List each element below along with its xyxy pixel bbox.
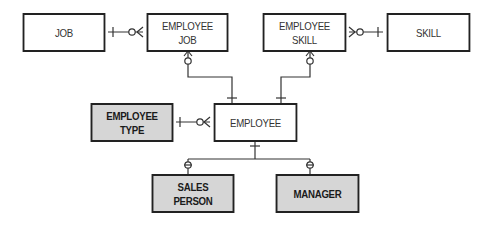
entity-label: SKILL: [416, 26, 441, 40]
entity-employee[interactable]: EMPLOYEE: [214, 103, 298, 142]
entity-manager[interactable]: MANAGER: [276, 174, 360, 213]
entity-label: EMPLOYEE JOB: [162, 19, 213, 47]
link-employee-subtypes: [184, 141, 314, 174]
entity-label: EMPLOYEE: [230, 116, 281, 130]
entity-label: JOB: [55, 26, 73, 40]
entity-label: SALES PERSON: [173, 180, 212, 208]
link-employee-employee-skill: [276, 51, 314, 103]
entity-label: EMPLOYEE TYPE: [106, 109, 157, 137]
entity-label: MANAGER: [294, 187, 342, 201]
entity-employee-skill[interactable]: EMPLOYEE SKILL: [263, 13, 347, 52]
entity-skill[interactable]: SKILL: [387, 13, 471, 52]
link-skill-employee-skill: [349, 27, 383, 37]
link-job-employee-job: [108, 27, 143, 37]
entity-sales-person[interactable]: SALES PERSON: [152, 174, 235, 213]
entity-employee-job[interactable]: EMPLOYEE JOB: [147, 13, 229, 52]
link-employee-type-employee: [176, 117, 210, 127]
entity-job[interactable]: JOB: [23, 13, 106, 52]
entity-label: EMPLOYEE SKILL: [279, 19, 330, 47]
er-diagram: JOB EMPLOYEE JOB EMPLOYEE SKILL SKILL EM…: [0, 0, 487, 230]
entity-employee-type[interactable]: EMPLOYEE TYPE: [91, 103, 174, 142]
link-employee-employee-job: [184, 51, 237, 103]
